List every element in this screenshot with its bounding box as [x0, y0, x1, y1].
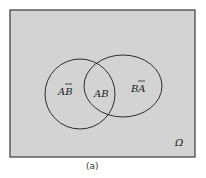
figure-caption: (a) [86, 161, 99, 171]
region-a-not-b-label: AB [57, 84, 73, 97]
region-a-and-b-label: AB [93, 88, 109, 99]
venn-diagram: AB AB BA Ω (a) [0, 0, 206, 178]
svg-text:BA: BA [130, 83, 146, 94]
universe-rectangle [10, 10, 195, 157]
svg-text:AB: AB [57, 86, 73, 97]
universe-label: Ω [174, 137, 183, 148]
region-b-not-a-label: BA [130, 81, 146, 94]
